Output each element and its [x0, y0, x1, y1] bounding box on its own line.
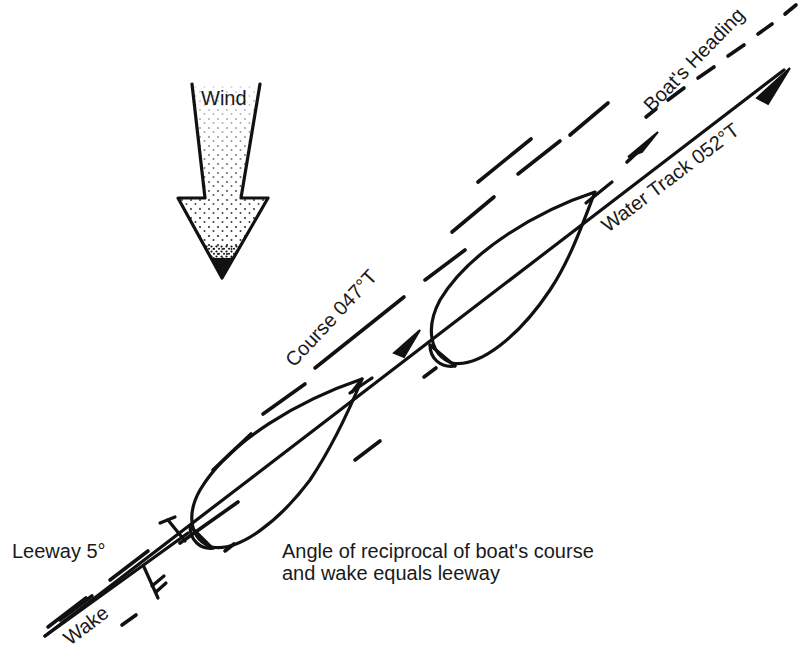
boats-heading-label: Boat's Heading	[639, 3, 749, 115]
caption-line-2: and wake equals leeway	[282, 562, 500, 584]
boat-hull-upper	[430, 182, 612, 366]
leeway-label: Leeway 5°	[12, 540, 106, 562]
caption-line-1: Angle of reciprocal of boat's course	[282, 540, 594, 562]
wind-arrow-icon	[178, 82, 270, 280]
boat-hull-lower	[190, 378, 372, 548]
water-track-label: Water Track 052°T	[597, 119, 743, 237]
leeway-marker	[144, 517, 185, 598]
wind-label: Wind	[201, 87, 247, 109]
